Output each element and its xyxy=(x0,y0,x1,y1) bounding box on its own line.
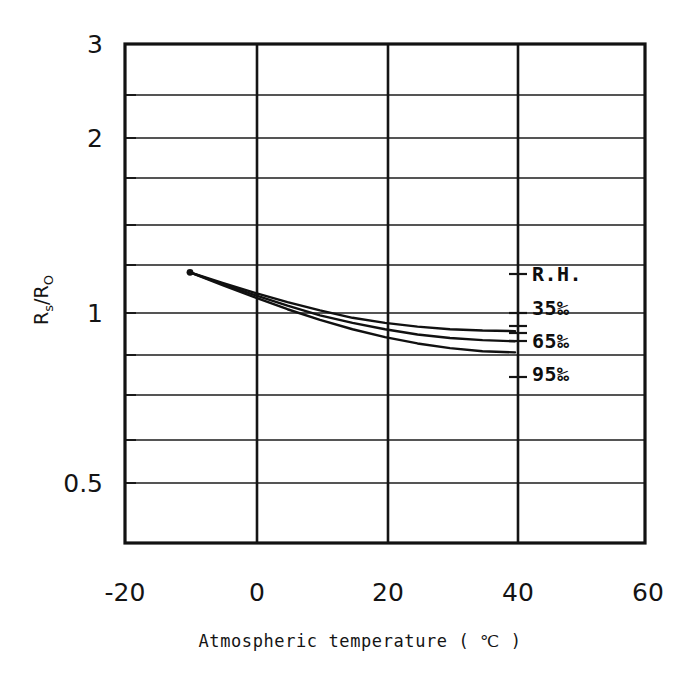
xtick-label-60: 60 xyxy=(632,578,664,607)
xtick-label-20: 20 xyxy=(372,578,404,607)
x-axis-title: Atmospheric temperature ( ℃ ) xyxy=(199,631,522,651)
legend-item-35: 35‰ xyxy=(532,296,570,320)
curve-origin-marker xyxy=(187,269,194,276)
xtick-label-minus20: -20 xyxy=(105,578,146,607)
legend-item-95: 95‰ xyxy=(532,362,570,386)
legend-header: R.H. xyxy=(532,262,582,286)
figure-background xyxy=(0,0,696,678)
chart-svg: R.H. 35‰ 65‰ 95‰ 3 2 1 0.5 -20 0 20 40 6… xyxy=(0,0,696,678)
xtick-label-40: 40 xyxy=(502,578,534,607)
ytick-label-0-5: 0.5 xyxy=(63,469,103,498)
ytick-label-3: 3 xyxy=(87,30,103,59)
y-axis-title-r2: R xyxy=(30,285,52,298)
xtick-label-0: 0 xyxy=(249,578,265,607)
legend-item-65: 65‰ xyxy=(532,329,570,353)
ytick-label-1: 1 xyxy=(87,299,103,328)
ytick-label-2: 2 xyxy=(87,124,103,153)
y-axis-title-sub-o: O xyxy=(41,275,56,285)
y-axis-title-r1: R xyxy=(30,312,52,325)
chart-figure: R.H. 35‰ 65‰ 95‰ 3 2 1 0.5 -20 0 20 40 6… xyxy=(0,0,696,678)
